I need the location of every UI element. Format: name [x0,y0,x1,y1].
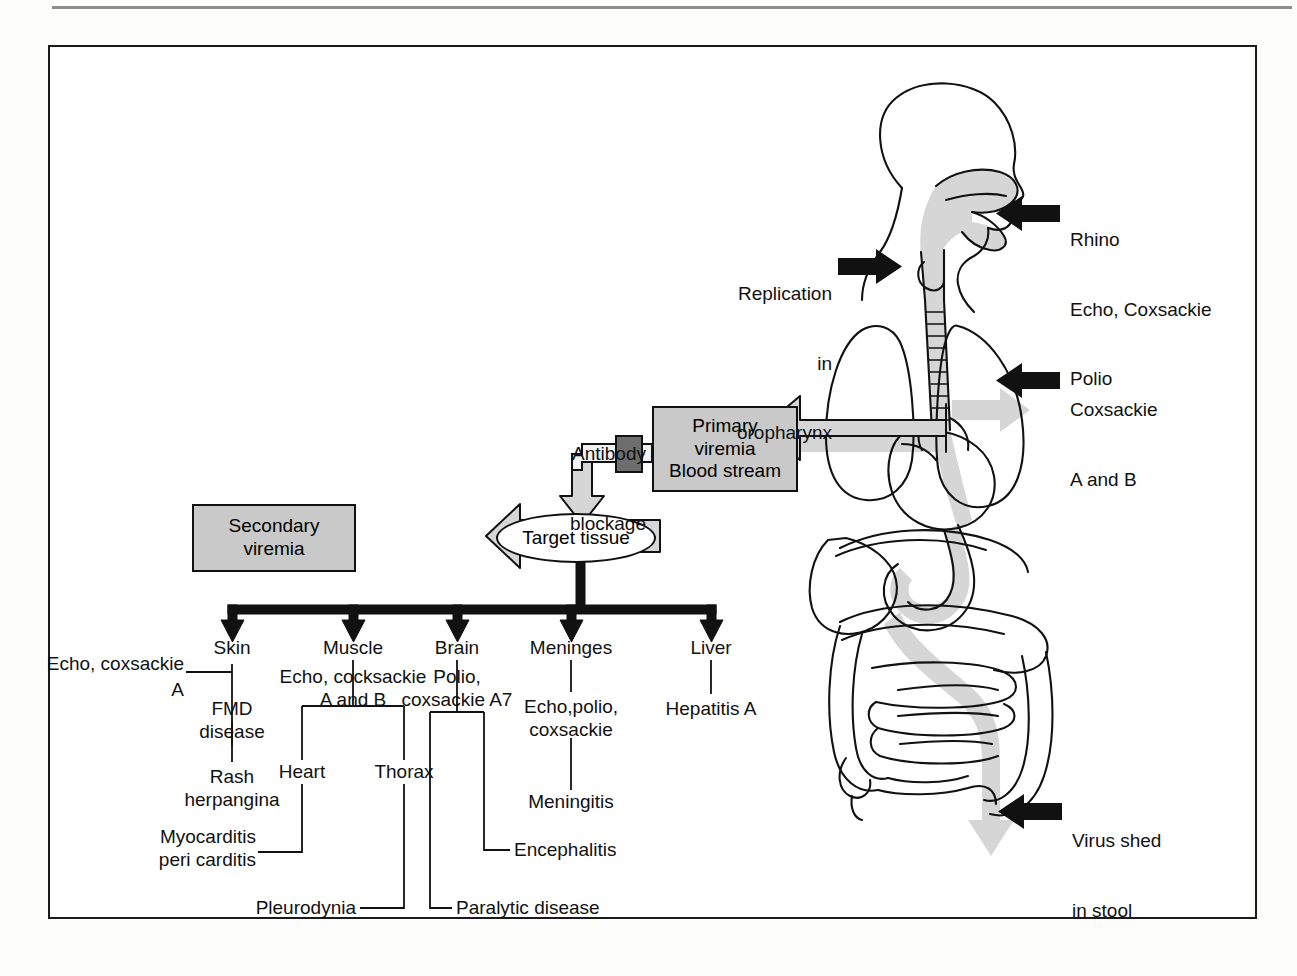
brain-agents-line1: Polio, [433,665,481,688]
in-stool-text: in stool [1072,899,1161,922]
organ-label-muscle: Muscle [323,636,383,659]
brain-outcome-paralytic: Paralytic disease [456,896,600,919]
organ-label-liver: Liver [690,636,731,659]
skin-agents-line1: Echo, coxsackie [47,652,184,675]
entry-label-lower-respiratory: Coxsackie A and B [1070,352,1158,537]
blockage-text: blockage [570,512,646,535]
skin-outcome-disease: disease [199,720,265,743]
skin-outcome-fmd: FMD [211,697,252,720]
meninges-outcome-meningitis: Meningitis [528,790,614,813]
skin-outcome-rash: Rash [210,765,254,788]
secondary-viremia-box[interactable]: Secondary viremia [192,504,356,572]
muscle-outcome-myocarditis: Myocarditis [160,825,256,848]
brain-outcome-encephalitis: Encephalitis [514,838,616,861]
muscle-outcome-pleurodynia: Pleurodynia [256,896,356,919]
meninges-agents-line1: Echo,polio, [524,695,618,718]
brain-agents-line2: coxsackie A7 [402,688,513,711]
skin-outcome-herpangina: herpangina [184,788,279,811]
organ-label-meninges: Meninges [530,636,612,659]
in-text: in [737,352,832,375]
secondary-viremia-line2: viremia [229,538,320,561]
top-rule-divider [52,6,1292,9]
skin-agents-line2: A [171,678,184,701]
figure-page: Primary viremia Blood stream Secondary v… [0,0,1297,976]
entry-label-oropharynx: Replication in oropharynx [737,236,832,491]
entry-label-virus-shed: Virus shed in stool [1072,783,1161,968]
antibody-blockage-label: Antibody blockage [570,396,646,581]
muscle-outcome-pericarditis: peri carditis [159,848,256,871]
antibody-text: Antibody [570,442,646,465]
a-and-b-text: A and B [1070,468,1158,491]
replication-text: Replication [737,282,832,305]
muscle-subnode-heart: Heart [279,760,325,783]
organ-label-skin: Skin [214,636,251,659]
rhino-text: Rhino [1070,228,1212,251]
muscle-agents-line1: Echo, cocksackie [280,665,427,688]
meninges-agents-line2: coxsackie [529,718,612,741]
organ-label-brain: Brain [435,636,479,659]
muscle-subnode-thorax: Thorax [374,760,433,783]
echo-coxsackie-text: Echo, Coxsackie [1070,298,1212,321]
virus-shed-text: Virus shed [1072,829,1161,852]
oropharynx-text: oropharynx [737,421,832,444]
secondary-viremia-line1: Secondary [229,515,320,538]
liver-outcome-hepatitis: Hepatitis A [666,697,757,720]
coxsackie-text: Coxsackie [1070,398,1158,421]
muscle-agents-line2: A and B [320,688,387,711]
